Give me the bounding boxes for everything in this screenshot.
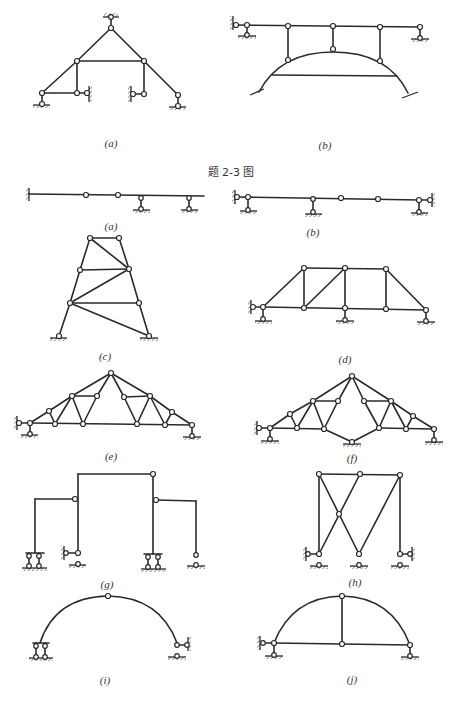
figure-c-label: (c) [99, 350, 111, 362]
figure-g-frame [22, 472, 205, 573]
figure-b-label: (b) [307, 226, 320, 238]
figure-j-tied-arch [257, 594, 419, 661]
top-figure-b [230, 16, 429, 98]
top-figure-a [33, 13, 186, 110]
figure-e-label: (e) [105, 450, 117, 462]
figure-g-label: (g) [101, 578, 114, 590]
figure-d-label: (d) [339, 353, 352, 365]
figure-a-label: (a) [105, 220, 118, 232]
figure-h-label: (h) [349, 576, 362, 588]
figure-i-arch [29, 594, 191, 662]
figure-f-label: (f) [347, 452, 357, 464]
structural-figures-canvas [0, 0, 462, 702]
figure-c-tower-truss [50, 236, 158, 342]
figure-e-roof-truss [14, 371, 201, 441]
figure-b-beam [232, 190, 435, 217]
top-figure-b-label: (b) [319, 139, 332, 151]
top-figure-a-label: (a) [105, 137, 118, 149]
figure-caption: 题 2-3 图 [208, 163, 255, 179]
figure-f-roof-truss [254, 374, 443, 448]
figure-a-beam [26, 188, 204, 213]
figure-j-label: (j) [347, 673, 357, 685]
figure-i-label: (i) [100, 674, 110, 686]
figure-d-truss [248, 266, 435, 326]
figure-h-frame [303, 472, 415, 570]
